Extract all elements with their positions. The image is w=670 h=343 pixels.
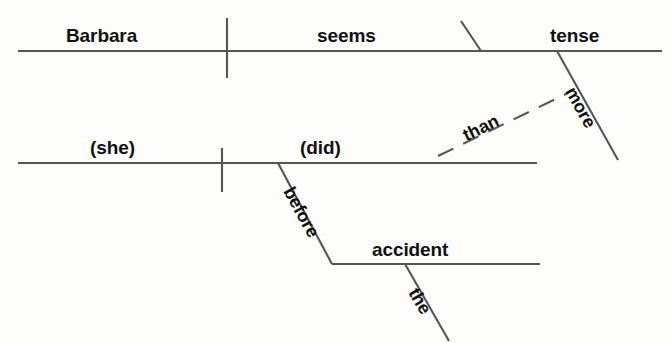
- word-subject-she: (she): [90, 138, 135, 157]
- diagram-lines: [0, 0, 670, 343]
- sentence-diagram: Barbara seems tense more than (she) (did…: [0, 0, 670, 343]
- word-complement-tense: tense: [550, 26, 599, 45]
- word-subject-barbara: Barbara: [66, 26, 137, 45]
- than-connector-dashed-line: [438, 93, 568, 156]
- word-verb-seems: seems: [317, 26, 376, 45]
- word-object-accident: accident: [372, 240, 448, 259]
- predicate-complement-slash: [461, 21, 481, 51]
- word-verb-did: (did): [300, 138, 341, 157]
